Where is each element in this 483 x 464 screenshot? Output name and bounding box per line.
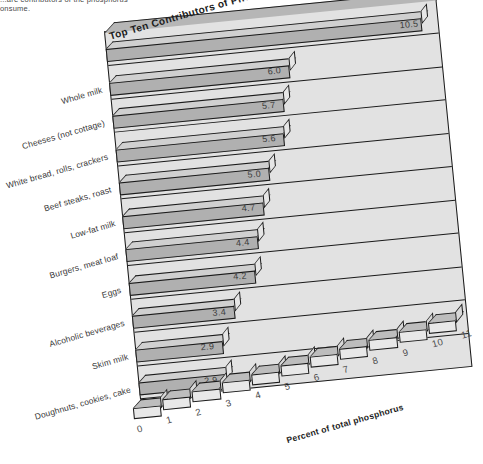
bar-value-label: 6.0 [267,66,281,77]
category-label: Eggs [101,285,123,300]
bar-value-label: 4.7 [241,203,255,214]
category-label: Whole milk [59,85,103,106]
axis-block-front [133,405,162,419]
x-tick-label: 1 [165,414,173,426]
bar-value-label: 5.0 [247,168,261,179]
bar-value-label: 3.4 [212,306,226,317]
category-label: Alcoholic beverages [48,318,126,349]
x-tick-label: 3 [224,397,232,409]
category-label: Burgers, meat loaf [48,251,119,280]
axis-block-front [221,380,250,394]
chart-figure: 10.56.05.75.65.04.74.44.23.42.92.9 Whole… [0,0,483,464]
bar-value-label: 5.6 [262,133,276,144]
x-axis-title: Percent of total phosphorus [285,402,404,445]
x-tick-label: 4 [253,389,261,401]
axis-block [192,388,221,402]
chart-screenshot: ...are contributors of the phosphorus on… [0,0,483,464]
category-label: White bread, rolls, crackers [5,151,109,190]
bar-value-label: 10.5 [399,18,419,30]
bar-value-label: 2.9 [200,341,214,352]
category-label: Low-fat milk [69,218,116,240]
x-tick-label: 0 [135,423,143,435]
bar-value-label: 4.4 [236,237,250,248]
category-label: Cheeses (not cottage) [21,118,106,151]
axis-block [133,405,162,419]
axis-block-front [192,388,221,402]
bar-value-label: 4.2 [233,271,247,282]
axis-block [162,397,191,411]
category-label: Skim milk [91,351,130,371]
x-tick-label: 2 [194,406,202,418]
x-tick-label: 11 [460,328,473,341]
axis-block-front [162,397,191,411]
category-label: Doughnuts, cookies, cake [34,384,132,421]
category-label: Beef steaks, roast [43,185,113,214]
axis-block [221,380,250,394]
bar-value-label: 5.7 [262,100,276,111]
